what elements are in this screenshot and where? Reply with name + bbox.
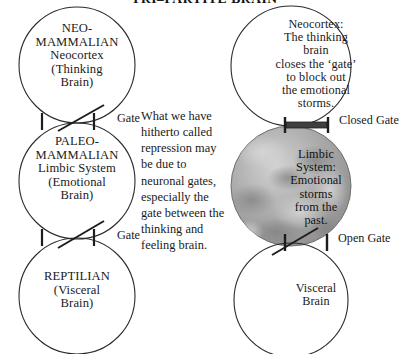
center-paragraph: What we have hitherto called repression … [141, 108, 245, 253]
gate-upper-left [42, 105, 104, 131]
gate-label-upper: Gate [117, 111, 140, 126]
page-title: TRI–PARTITE BRAIN [0, 0, 409, 7]
label-paleo-mammalian: PALEO- MAMMALIAN Limbic System (Emotiona… [12, 135, 142, 203]
gate-label-open: Open Gate [338, 231, 390, 246]
label-limbic-system: Limbic System: Emotional storms from the… [258, 148, 374, 227]
gate-label-lower: Gate [117, 228, 140, 243]
label-reptilian: REPTILIAN (Visceral Brain) [18, 270, 136, 311]
label-visceral-brain: Visceral Brain [258, 282, 374, 308]
diagram-canvas: TRI–PARTITE BRAIN NEO- MAMMALIAN Neocort… [0, 0, 409, 354]
gate-label-closed: Closed Gate [339, 113, 399, 128]
label-neocortex: Neocortex: The thinking brain closes the… [258, 18, 374, 110]
label-neo-mammalian: NEO- MAMMALIAN Neocortex (Thinking Brain… [18, 22, 136, 90]
